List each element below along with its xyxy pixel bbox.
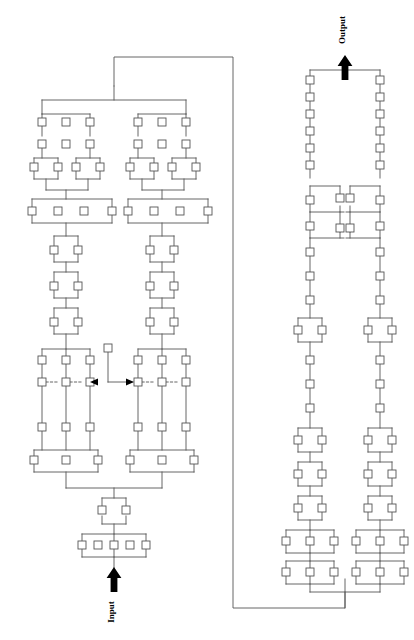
node-box[interactable] xyxy=(376,76,384,84)
node-box[interactable] xyxy=(376,144,384,152)
node-box[interactable] xyxy=(306,196,314,204)
node-box[interactable] xyxy=(142,541,150,549)
node-box[interactable] xyxy=(50,318,58,326)
node-box[interactable] xyxy=(38,423,46,431)
node-box[interactable] xyxy=(306,144,314,152)
node-box[interactable] xyxy=(158,118,166,126)
node-box[interactable] xyxy=(192,163,200,171)
node-box[interactable] xyxy=(62,118,70,126)
node-box[interactable] xyxy=(306,296,314,304)
node-box[interactable] xyxy=(122,506,130,514)
node-box[interactable] xyxy=(96,163,104,171)
node-box[interactable] xyxy=(124,207,132,215)
node-box[interactable] xyxy=(306,110,314,118)
node-box[interactable] xyxy=(294,470,302,478)
node-box[interactable] xyxy=(376,568,384,576)
node-box[interactable] xyxy=(190,456,198,464)
node-box[interactable] xyxy=(330,537,338,545)
node-box[interactable] xyxy=(170,246,178,254)
node-box[interactable] xyxy=(50,282,58,290)
node-box[interactable] xyxy=(376,296,384,304)
node-box[interactable] xyxy=(50,246,58,254)
node-box[interactable] xyxy=(86,140,94,148)
node-box[interactable] xyxy=(388,504,396,512)
node-box[interactable] xyxy=(346,224,354,232)
node-box[interactable] xyxy=(134,378,142,386)
node-box[interactable] xyxy=(74,246,82,254)
node-box[interactable] xyxy=(54,163,62,171)
node-box[interactable] xyxy=(282,568,290,576)
node-box[interactable] xyxy=(400,568,408,576)
node-box[interactable] xyxy=(306,248,314,256)
node-box[interactable] xyxy=(330,568,338,576)
node-box[interactable] xyxy=(376,93,384,101)
node-box[interactable] xyxy=(170,282,178,290)
node-box[interactable] xyxy=(38,140,46,148)
node-box[interactable] xyxy=(336,194,344,202)
node-box[interactable] xyxy=(376,404,384,412)
node-box[interactable] xyxy=(364,326,372,334)
node-box[interactable] xyxy=(38,378,46,386)
node-box[interactable] xyxy=(146,282,154,290)
node-box[interactable] xyxy=(150,163,158,171)
node-box[interactable] xyxy=(306,537,314,545)
node-box[interactable] xyxy=(364,504,372,512)
node-box[interactable] xyxy=(158,378,166,386)
node-box[interactable] xyxy=(306,380,314,388)
node-box[interactable] xyxy=(306,76,314,84)
node-box[interactable] xyxy=(400,537,408,545)
node-box[interactable] xyxy=(134,140,142,148)
node-box[interactable] xyxy=(28,207,36,215)
node-box[interactable] xyxy=(146,246,154,254)
node-box[interactable] xyxy=(376,380,384,388)
node-box[interactable] xyxy=(134,356,142,364)
node-box[interactable] xyxy=(78,541,86,549)
node-box[interactable] xyxy=(150,207,158,215)
node-box[interactable] xyxy=(306,127,314,135)
node-box[interactable] xyxy=(388,436,396,444)
node-box[interactable] xyxy=(388,470,396,478)
node-box[interactable] xyxy=(294,504,302,512)
node-box[interactable] xyxy=(306,161,314,169)
node-box[interactable] xyxy=(62,356,70,364)
node-box[interactable] xyxy=(168,163,176,171)
node-box[interactable] xyxy=(182,140,190,148)
node-box[interactable] xyxy=(158,423,166,431)
node-box[interactable] xyxy=(294,326,302,334)
node-box[interactable] xyxy=(318,470,326,478)
node-box[interactable] xyxy=(74,282,82,290)
node-box[interactable] xyxy=(282,537,290,545)
node-box[interactable] xyxy=(376,161,384,169)
node-box[interactable] xyxy=(38,118,46,126)
node-box[interactable] xyxy=(30,456,38,464)
node-box[interactable] xyxy=(98,506,106,514)
node-box[interactable] xyxy=(346,194,354,202)
node-box[interactable] xyxy=(62,378,70,386)
node-box[interactable] xyxy=(306,404,314,412)
node-box[interactable] xyxy=(80,207,88,215)
node-box[interactable] xyxy=(388,326,396,334)
node-box[interactable] xyxy=(94,541,102,549)
node-box[interactable] xyxy=(364,436,372,444)
node-box[interactable] xyxy=(72,163,80,171)
node-box[interactable] xyxy=(94,456,102,464)
node-box[interactable] xyxy=(318,436,326,444)
node-box[interactable] xyxy=(30,163,38,171)
node-box[interactable] xyxy=(126,163,134,171)
node-box[interactable] xyxy=(318,504,326,512)
node-box[interactable] xyxy=(306,356,314,364)
node-box[interactable] xyxy=(108,207,116,215)
node-box[interactable] xyxy=(176,207,184,215)
node-box[interactable] xyxy=(182,423,190,431)
node-box[interactable] xyxy=(158,356,166,364)
node-box[interactable] xyxy=(318,326,326,334)
node-box[interactable] xyxy=(376,222,384,230)
node-box[interactable] xyxy=(134,423,142,431)
node-box[interactable] xyxy=(86,356,94,364)
node-box[interactable] xyxy=(336,224,344,232)
node-box[interactable] xyxy=(86,118,94,126)
node-box[interactable] xyxy=(376,356,384,364)
node-box[interactable] xyxy=(182,378,190,386)
node-box[interactable] xyxy=(158,456,166,464)
node-box[interactable] xyxy=(158,140,166,148)
